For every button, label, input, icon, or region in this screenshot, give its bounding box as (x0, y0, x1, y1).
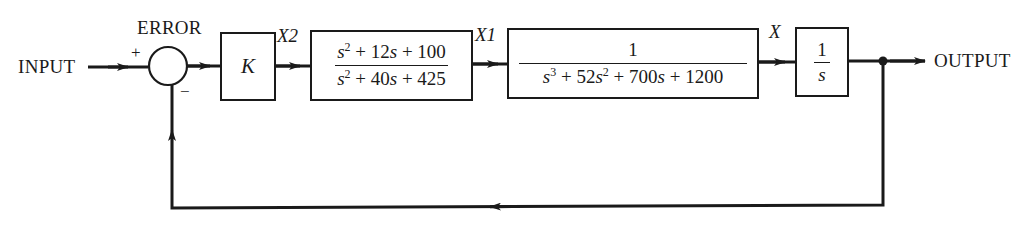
output-label: OUTPUT (934, 50, 1011, 72)
plant-denominator: s3 + 52s2 + 700s + 1200 (519, 63, 747, 88)
plant-block: 1 s3 + 52s2 + 700s + 1200 (507, 28, 759, 99)
integrator-transfer-function: 1 s (813, 39, 831, 86)
minus-sign: − (180, 82, 190, 102)
input-label: INPUT (18, 56, 75, 78)
gain-label: K (241, 54, 255, 79)
integrator-denominator: s (814, 62, 829, 86)
error-label: ERROR (137, 17, 202, 39)
plant-transfer-function: 1 s3 + 52s2 + 700s + 1200 (519, 39, 747, 88)
plus-sign: + (131, 43, 141, 63)
x1-label: X1 (475, 24, 496, 46)
compensator-block: s2 + 12s + 100 s2 + 40s + 425 (310, 30, 473, 101)
x2-label: X2 (277, 25, 298, 47)
integrator-block: 1 s (795, 27, 849, 97)
integrator-numerator: 1 (813, 39, 831, 62)
summing-junction (149, 47, 187, 85)
block-diagram: INPUT ERROR + − X2 X1 X OUTPUT K s2 + 12… (0, 0, 1036, 226)
plant-numerator: 1 (626, 39, 640, 63)
x-label: X (769, 21, 781, 43)
compensator-numerator: s2 + 12s + 100 (335, 41, 448, 65)
compensator-denominator: s2 + 40s + 425 (335, 65, 448, 90)
gain-block: K (220, 32, 276, 101)
compensator-transfer-function: s2 + 12s + 100 s2 + 40s + 425 (335, 41, 448, 90)
